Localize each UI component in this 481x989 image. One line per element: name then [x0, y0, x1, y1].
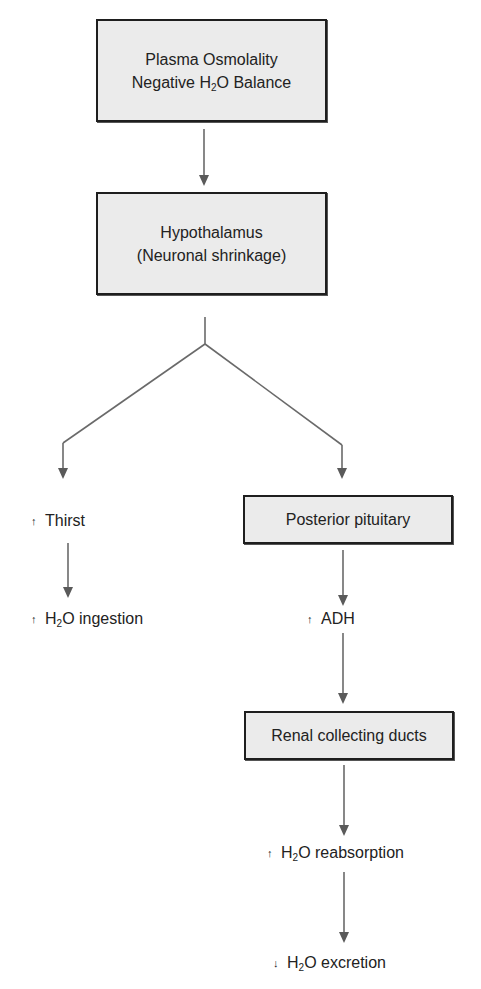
arrowhead-icon — [199, 175, 209, 186]
increase-arrow-icon: ↑ — [267, 843, 281, 863]
fork-right-branch — [205, 344, 342, 445]
node-h2o-reabsorption: ↑H2O reabsorption — [267, 843, 404, 863]
node-thirst: ↑Thirst — [31, 511, 85, 531]
increase-arrow-icon: ↑ — [31, 609, 45, 629]
node-plasma-osmolality: Plasma Osmolality Negative H2O Balance — [96, 19, 327, 122]
arrowhead-icon — [338, 693, 348, 704]
arrowhead-icon — [63, 587, 73, 598]
increase-arrow-icon: ↑ — [307, 609, 321, 629]
node-h2o-excretion: ↓H2O excretion — [273, 953, 386, 973]
node-h2o-ingestion: ↑H2O ingestion — [31, 609, 143, 629]
increase-arrow-icon: ↑ — [31, 511, 45, 531]
node-plasma-line2: Negative H2O Balance — [132, 71, 291, 94]
decrease-arrow-icon: ↓ — [273, 953, 287, 973]
fork-left-branch — [63, 344, 205, 443]
arrowhead-icon — [339, 825, 349, 836]
node-hypothalamus-line2: (Neuronal shrinkage) — [137, 244, 286, 267]
node-posterior-pituitary: Posterior pituitary — [243, 495, 453, 544]
arrowhead-icon — [338, 595, 348, 606]
node-adh: ↑ADH — [307, 609, 355, 629]
arrowhead-icon — [339, 932, 349, 943]
arrowhead-icon — [337, 468, 347, 479]
node-hypothalamus-line1: Hypothalamus — [160, 221, 262, 244]
node-renal-collecting-ducts: Renal collecting ducts — [244, 711, 454, 760]
node-hypothalamus: Hypothalamus (Neuronal shrinkage) — [96, 192, 327, 295]
arrowhead-icon — [58, 468, 68, 479]
node-plasma-line1: Plasma Osmolality — [145, 48, 277, 71]
